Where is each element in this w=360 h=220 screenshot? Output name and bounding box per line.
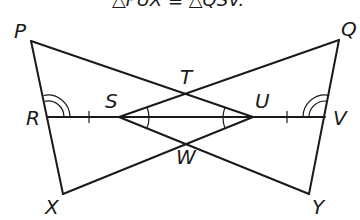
label-U: U <box>255 89 270 113</box>
segment-PU <box>31 41 253 117</box>
label-W: W <box>176 145 197 169</box>
double-arc-angle-R-inner <box>45 101 64 117</box>
arc-angle-S-top <box>147 107 149 117</box>
geometry-diagram: △PUX ≅ △QSV. P Q R S T U V W X Y <box>0 0 360 220</box>
segment-YS <box>119 117 309 194</box>
label-X: X <box>44 195 60 219</box>
label-V: V <box>333 106 348 130</box>
double-arc-angle-R-outer <box>44 95 71 117</box>
label-T: T <box>180 65 194 89</box>
label-R: R <box>26 106 40 130</box>
label-Q: Q <box>341 17 357 41</box>
congruence-statement: △PUX ≅ △QSV. <box>112 0 244 10</box>
arc-angle-S-bottom <box>147 117 149 128</box>
segment-XU <box>63 117 253 194</box>
arc-angle-U-bottom <box>223 117 225 128</box>
label-P: P <box>14 19 27 43</box>
label-Y: Y <box>312 195 326 219</box>
arc-angle-U-top <box>223 107 225 117</box>
label-S: S <box>105 89 118 113</box>
